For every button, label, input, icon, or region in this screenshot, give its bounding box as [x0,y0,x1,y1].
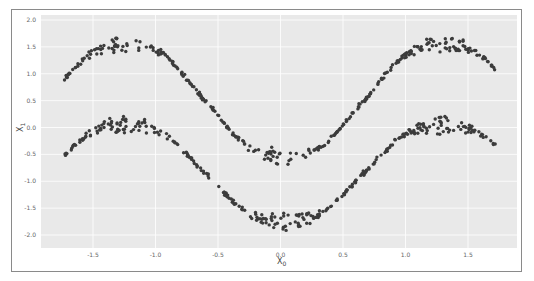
y-tick-label: -2.0 [24,231,36,238]
x-tick-label: 1.5 [463,251,473,258]
y-tick-label: 1.5 [26,43,36,50]
x-tick-label: 1.0 [401,251,411,258]
y-axis-ticks: 2.01.51.00.50.0-0.5-1.0-1.5-2.0 [24,16,36,238]
x-tick-label: -0.5 [212,251,224,258]
y-tick-label: 2.0 [26,16,36,23]
y-tick-label: -0.5 [24,150,36,157]
y-axis-label: X1 [16,123,26,132]
y-tick-label: 1.0 [26,70,36,77]
y-tick-label: 0.5 [26,97,36,104]
data-points [63,37,497,233]
y-tick-label: 0.0 [26,124,36,131]
y-tick-label: -1.5 [24,204,36,211]
x-axis-label: X0 [277,257,286,267]
x-tick-label: 0.5 [338,251,348,258]
scatter-chart: 2.01.51.00.50.0-0.5-1.0-1.5-2.0 -1.5-1.0… [0,0,534,281]
x-tick-label: -1.0 [150,251,162,258]
x-tick-label: -1.5 [87,251,99,258]
y-tick-label: -1.0 [24,177,36,184]
